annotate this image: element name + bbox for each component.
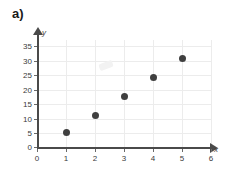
gridline-vertical [95, 40, 96, 147]
x-tick-label: 6 [204, 154, 218, 163]
x-tick-mark [37, 149, 38, 152]
y-tick-mark [34, 61, 37, 62]
x-tick-mark [124, 149, 125, 152]
gridline-horizontal [38, 46, 211, 47]
y-tick-label: 30 [12, 57, 32, 66]
y-tick-label: 25 [12, 71, 32, 80]
gridline-horizontal [38, 61, 211, 62]
x-tick-label: 5 [175, 154, 189, 163]
y-tick-mark [34, 133, 37, 134]
gridline-horizontal [38, 104, 211, 105]
x-axis-label: x [214, 145, 218, 154]
gridline-horizontal [38, 75, 211, 76]
data-point [121, 93, 128, 100]
y-tick-label: 10 [12, 115, 32, 124]
x-tick-mark [153, 149, 154, 152]
x-tick-mark [182, 149, 183, 152]
y-tick-label: 15 [12, 100, 32, 109]
y-tick-mark [34, 119, 37, 120]
scatter-plot: y x 35 30 25 20 15 10 5 0 0 1 2 3 4 5 [0, 0, 226, 175]
x-tick-mark [211, 149, 212, 152]
data-point [63, 129, 70, 136]
x-tick-label: 3 [117, 154, 131, 163]
y-tick-label: 35 [12, 42, 32, 51]
y-tick-mark [34, 46, 37, 47]
x-tick-label: 1 [59, 154, 73, 163]
gridline-vertical [153, 40, 154, 147]
gridline-vertical [211, 40, 212, 147]
y-tick-label: 20 [12, 86, 32, 95]
y-axis-line [37, 34, 39, 149]
data-point [150, 74, 157, 81]
y-tick-mark [34, 104, 37, 105]
x-tick-label: 4 [146, 154, 160, 163]
gridline-horizontal [38, 119, 211, 120]
chart-screenshot: a) y x [0, 0, 226, 175]
x-tick-label: 2 [88, 154, 102, 163]
y-tick-mark [34, 147, 37, 148]
gridline-horizontal [38, 90, 211, 91]
y-tick-mark [34, 75, 37, 76]
y-tick-mark [34, 90, 37, 91]
y-axis-label: y [42, 28, 46, 37]
x-tick-mark [95, 149, 96, 152]
x-tick-label: 0 [30, 154, 44, 163]
y-tick-label: 5 [12, 129, 32, 138]
data-point [92, 112, 99, 119]
x-tick-mark [66, 149, 67, 152]
y-tick-label: 0 [12, 143, 32, 152]
